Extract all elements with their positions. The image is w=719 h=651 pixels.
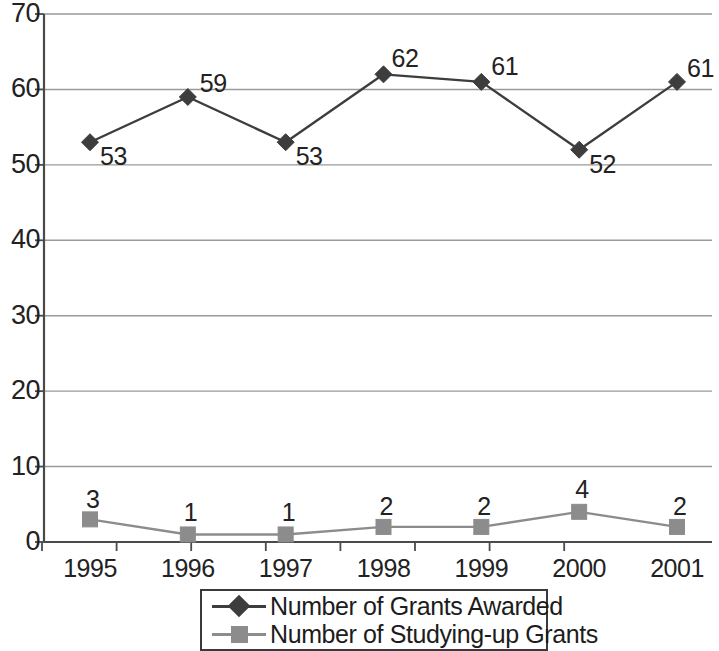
y-axis-tick-label: 0: [2, 528, 40, 555]
data-point-square: [376, 519, 391, 534]
y-axis-tick-label: 50: [2, 151, 40, 178]
legend-label-grants-awarded: Number of Grants Awarded: [266, 594, 563, 619]
legend-entry-studying-up-grants: Number of Studying-up Grants: [212, 620, 598, 648]
x-axis-tick-label: 1997: [231, 556, 341, 581]
x-axis-tick-label: 2000: [524, 556, 634, 581]
data-point-diamond: [82, 134, 99, 151]
x-axis-tick-label: 1998: [329, 556, 439, 581]
data-point-value-label: 62: [392, 46, 419, 71]
data-point-value-label: 61: [687, 56, 714, 81]
data-point-value-label: 53: [100, 144, 127, 169]
diamond-marker-icon: [212, 594, 266, 618]
data-point-value-label: 2: [380, 494, 393, 519]
data-point-square: [83, 512, 98, 527]
data-point-square: [180, 527, 195, 542]
series-line-1: [90, 74, 677, 149]
line-chart: 010203040506070 199519961997199819992000…: [0, 0, 719, 651]
data-point-diamond: [375, 66, 392, 83]
data-point-diamond: [473, 73, 490, 90]
data-point-square: [572, 504, 587, 519]
data-point-value-label: 53: [296, 144, 323, 169]
data-point-value-label: 4: [575, 477, 588, 502]
data-point-diamond: [669, 73, 686, 90]
legend-label-studying-up-grants: Number of Studying-up Grants: [266, 622, 598, 647]
data-point-square: [670, 519, 685, 534]
data-point-value-label: 2: [477, 494, 490, 519]
data-point-value-label: 1: [184, 500, 197, 525]
y-axis-tick-label: 70: [2, 0, 40, 27]
y-axis-tick-label: 30: [2, 302, 40, 329]
x-axis-tick-label: 1996: [133, 556, 243, 581]
data-point-diamond: [277, 134, 294, 151]
data-point-diamond: [571, 141, 588, 158]
y-axis-tick-label: 60: [2, 75, 40, 102]
data-point-value-label: 1: [282, 500, 295, 525]
x-axis-tick-label: 1999: [426, 556, 536, 581]
data-point-value-label: 2: [673, 494, 686, 519]
x-axis-tick-label: 1995: [35, 556, 145, 581]
data-point-square: [278, 527, 293, 542]
legend-entry-grants-awarded: Number of Grants Awarded: [212, 592, 563, 620]
square-marker-icon: [212, 622, 266, 646]
y-axis-tick-labels: 010203040506070: [0, 0, 40, 651]
data-point-square: [474, 519, 489, 534]
y-axis-tick-label: 40: [2, 226, 40, 253]
data-point-diamond: [179, 88, 196, 105]
data-point-value-label: 61: [491, 54, 518, 79]
chart-legend: Number of Grants Awarded Number of Study…: [200, 589, 548, 651]
y-axis-tick-label: 20: [2, 377, 40, 404]
data-point-value-label: 3: [86, 487, 99, 512]
x-axis-tick-label: 2001: [622, 556, 719, 581]
y-axis-tick-label: 10: [2, 453, 40, 480]
data-point-value-label: 52: [589, 152, 616, 177]
data-point-value-label: 59: [200, 71, 227, 96]
